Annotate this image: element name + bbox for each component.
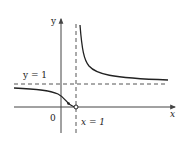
x-axis-label: x: [170, 109, 175, 119]
curve-right-branch: [80, 25, 168, 80]
origin-label: 0: [50, 113, 56, 123]
curve-left-branch: [14, 88, 76, 107]
open-circle: [74, 105, 78, 109]
graph-canvas: y x 0 y = 1 x = 1: [0, 0, 184, 141]
vertical-asymptote-label: x = 1: [81, 117, 105, 127]
y-axis-label: y: [50, 16, 57, 26]
function-graph: y x 0 y = 1 x = 1: [0, 0, 184, 141]
filled-point: [67, 102, 70, 105]
horizontal-asymptote-label: y = 1: [22, 70, 47, 80]
